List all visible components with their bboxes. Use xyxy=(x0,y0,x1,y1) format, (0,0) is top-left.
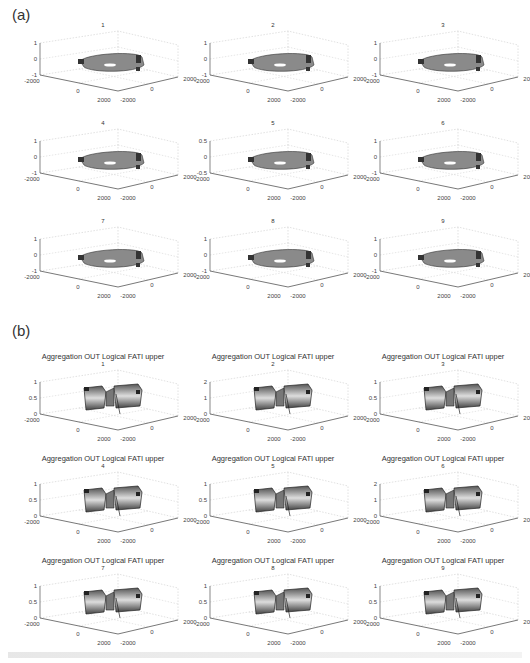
subplot-number: 1 xyxy=(18,361,188,367)
subplot-number: 9 xyxy=(358,565,528,571)
surface-plot-3d: 10.50-200002000-200002000 xyxy=(18,574,188,649)
surface-plot-3d: 10-1-200002000-200002000 xyxy=(18,227,188,302)
subplot-title: Aggregation OUT Logical FATI upper xyxy=(358,556,528,565)
svg-text:2000: 2000 xyxy=(267,538,281,544)
svg-text:-2000: -2000 xyxy=(24,176,40,182)
subplot-number: 4 xyxy=(18,120,188,126)
svg-text:0: 0 xyxy=(246,529,250,535)
svg-text:-2000: -2000 xyxy=(24,417,40,423)
svg-text:-2000: -2000 xyxy=(120,195,136,201)
subplot-number: 8 xyxy=(188,565,358,571)
svg-text:0: 0 xyxy=(320,86,324,92)
svg-text:-2000: -2000 xyxy=(364,78,380,84)
subplot-title: Aggregation OUT Logical FATI upper xyxy=(358,454,528,463)
svg-text:1: 1 xyxy=(34,236,38,242)
svg-text:1: 1 xyxy=(374,583,378,589)
subplot-number: 2 xyxy=(188,22,358,28)
surface-plot-3d: 210-200002000-200002000 xyxy=(358,472,528,547)
svg-text:0.5: 0.5 xyxy=(29,599,38,605)
surface-plot-3d: 10.50-200002000-200002000 xyxy=(358,574,528,649)
subplot-number: 4 xyxy=(18,463,188,469)
svg-text:2000: 2000 xyxy=(523,415,530,421)
subplot-title: Aggregation OUT Logical FATI upper xyxy=(188,454,358,463)
surface-plot-3d: 10.50-200002000-200002000 xyxy=(18,472,188,547)
svg-text:2000: 2000 xyxy=(267,640,281,646)
svg-text:0: 0 xyxy=(490,184,494,190)
subplot-number: 3 xyxy=(358,22,528,28)
svg-text:0: 0 xyxy=(76,88,80,94)
svg-text:-2000: -2000 xyxy=(460,436,476,442)
svg-text:-2000: -2000 xyxy=(290,436,306,442)
svg-text:2000: 2000 xyxy=(523,517,530,523)
svg-text:0: 0 xyxy=(76,529,80,535)
subplot-number: 2 xyxy=(188,361,358,367)
svg-text:0.5: 0.5 xyxy=(369,599,378,605)
svg-text:0.5: 0.5 xyxy=(29,497,38,503)
svg-text:0.5: 0.5 xyxy=(369,395,378,401)
subplot-number: 6 xyxy=(358,463,528,469)
svg-text:0: 0 xyxy=(246,186,250,192)
svg-text:0: 0 xyxy=(320,425,324,431)
svg-text:-2000: -2000 xyxy=(120,436,136,442)
svg-text:2000: 2000 xyxy=(97,640,111,646)
svg-text:-2000: -2000 xyxy=(194,274,210,280)
surface-plot-3d: 10-1-200002000-200002000 xyxy=(18,31,188,106)
svg-text:0: 0 xyxy=(374,154,378,160)
svg-text:0: 0 xyxy=(490,629,494,635)
svg-text:-2000: -2000 xyxy=(24,274,40,280)
svg-text:2000: 2000 xyxy=(97,538,111,544)
svg-text:2000: 2000 xyxy=(97,436,111,442)
svg-text:2000: 2000 xyxy=(437,640,451,646)
svg-text:0.5: 0.5 xyxy=(199,599,208,605)
svg-text:0: 0 xyxy=(416,631,420,637)
subplot-title: Aggregation OUT Logical FATI upper xyxy=(358,352,528,361)
svg-text:0: 0 xyxy=(76,427,80,433)
svg-text:0: 0 xyxy=(150,184,154,190)
surface-plot-3d: 10-1-200002000-200002000 xyxy=(358,129,528,204)
svg-text:0: 0 xyxy=(34,56,38,62)
subplot-number: 7 xyxy=(18,218,188,224)
svg-text:0.5: 0.5 xyxy=(29,395,38,401)
svg-text:0: 0 xyxy=(416,427,420,433)
svg-text:2000: 2000 xyxy=(523,619,530,625)
svg-text:0: 0 xyxy=(416,284,420,290)
subplot-number: 5 xyxy=(188,463,358,469)
subplot-number: 5 xyxy=(188,120,358,126)
svg-text:-2000: -2000 xyxy=(460,538,476,544)
svg-text:1: 1 xyxy=(204,236,208,242)
svg-text:1: 1 xyxy=(374,379,378,385)
svg-text:1: 1 xyxy=(204,40,208,46)
svg-text:0: 0 xyxy=(490,527,494,533)
svg-text:-2000: -2000 xyxy=(364,417,380,423)
svg-text:2: 2 xyxy=(374,481,378,487)
svg-text:0: 0 xyxy=(150,86,154,92)
svg-text:0: 0 xyxy=(246,88,250,94)
svg-text:0: 0 xyxy=(34,252,38,258)
svg-text:2000: 2000 xyxy=(523,272,530,278)
svg-text:-2000: -2000 xyxy=(290,538,306,544)
svg-text:-2000: -2000 xyxy=(364,621,380,627)
surface-plot-3d: 10.50-200002000-200002000 xyxy=(188,472,358,547)
svg-text:2000: 2000 xyxy=(97,195,111,201)
svg-text:-2000: -2000 xyxy=(364,176,380,182)
svg-text:2000: 2000 xyxy=(523,76,530,82)
svg-text:0: 0 xyxy=(204,56,208,62)
svg-text:2000: 2000 xyxy=(267,436,281,442)
svg-text:-2000: -2000 xyxy=(194,417,210,423)
svg-text:1: 1 xyxy=(34,138,38,144)
svg-text:1: 1 xyxy=(34,379,38,385)
surface-plot-3d: 10.50-200002000-200002000 xyxy=(18,370,188,445)
svg-text:0: 0 xyxy=(490,86,494,92)
svg-text:1: 1 xyxy=(204,583,208,589)
svg-text:0: 0 xyxy=(76,284,80,290)
subplot-number: 9 xyxy=(358,218,528,224)
svg-text:0: 0 xyxy=(76,631,80,637)
surface-plot-3d: 10-1-200002000-200002000 xyxy=(18,129,188,204)
panel-a-label: (a) xyxy=(12,6,30,23)
subplot-title: Aggregation OUT Logical FATI upper xyxy=(18,556,188,565)
svg-text:2: 2 xyxy=(204,379,208,385)
svg-text:1: 1 xyxy=(374,40,378,46)
surface-plot-3d: 0.50-0.5-200002000-200002000 xyxy=(188,129,358,204)
surface-plot-3d: 10-1-200002000-200002000 xyxy=(188,227,358,302)
svg-text:-2000: -2000 xyxy=(24,78,40,84)
